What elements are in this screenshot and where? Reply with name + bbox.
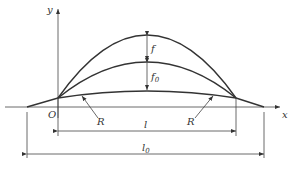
rise-f-label: f [150, 43, 157, 54]
radius-left-label: R [96, 116, 105, 127]
span-l0-label: l0 [142, 142, 150, 155]
base-arc-curve [27, 91, 264, 107]
origin-label: O [48, 109, 56, 120]
x-axis-label: x [282, 109, 288, 120]
radius-right-label: R [186, 116, 195, 127]
y-axis-label: y [46, 4, 53, 15]
rise-f0-sub: 0 [155, 76, 160, 84]
span-l-label: l [144, 119, 147, 130]
arch-diagram: y x O f f0 R R l l0 [0, 0, 295, 172]
rise-f0-label: f0 [150, 71, 160, 84]
span-l0-sub: 0 [145, 147, 150, 155]
